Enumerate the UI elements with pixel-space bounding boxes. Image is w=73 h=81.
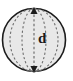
sphere-figure-svg [0, 0, 73, 81]
sphere-diameter-diagram: d [0, 0, 73, 81]
diameter-label: d [38, 31, 46, 46]
